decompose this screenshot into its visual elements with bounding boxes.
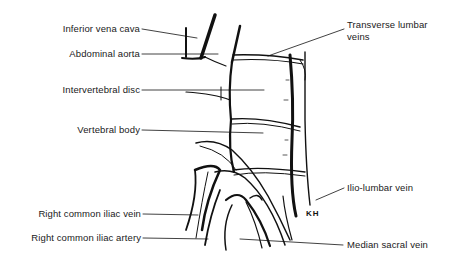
anatomy-diagram: Inferior vena cava Abdominal aorta Inter…: [0, 0, 450, 263]
artist-signature: KH: [306, 209, 320, 218]
label-transverse-lumbar-veins-line2: veins: [347, 31, 370, 42]
label-inferior-vena-cava: Inferior vena cava: [54, 23, 140, 34]
label-vertebral-body: Vertebral body: [40, 124, 140, 135]
label-transverse-lumbar-veins-line1: Transverse lumbar: [347, 19, 428, 30]
label-right-common-iliac-vein: Right common iliac vein: [10, 208, 141, 219]
label-abdominal-aorta: Abdominal aorta: [54, 48, 140, 59]
great-vessels-upper: [182, 15, 240, 66]
label-median-sacral-vein: Median sacral vein: [347, 239, 428, 250]
label-ilio-lumbar-vein: Ilio-lumbar vein: [347, 182, 413, 193]
label-intervertebral-disc: Intervertebral disc: [40, 84, 140, 95]
label-right-common-iliac-artery: Right common iliac artery: [2, 232, 141, 243]
iliac-vessels: [186, 142, 292, 250]
vertebral-column: [186, 52, 310, 216]
